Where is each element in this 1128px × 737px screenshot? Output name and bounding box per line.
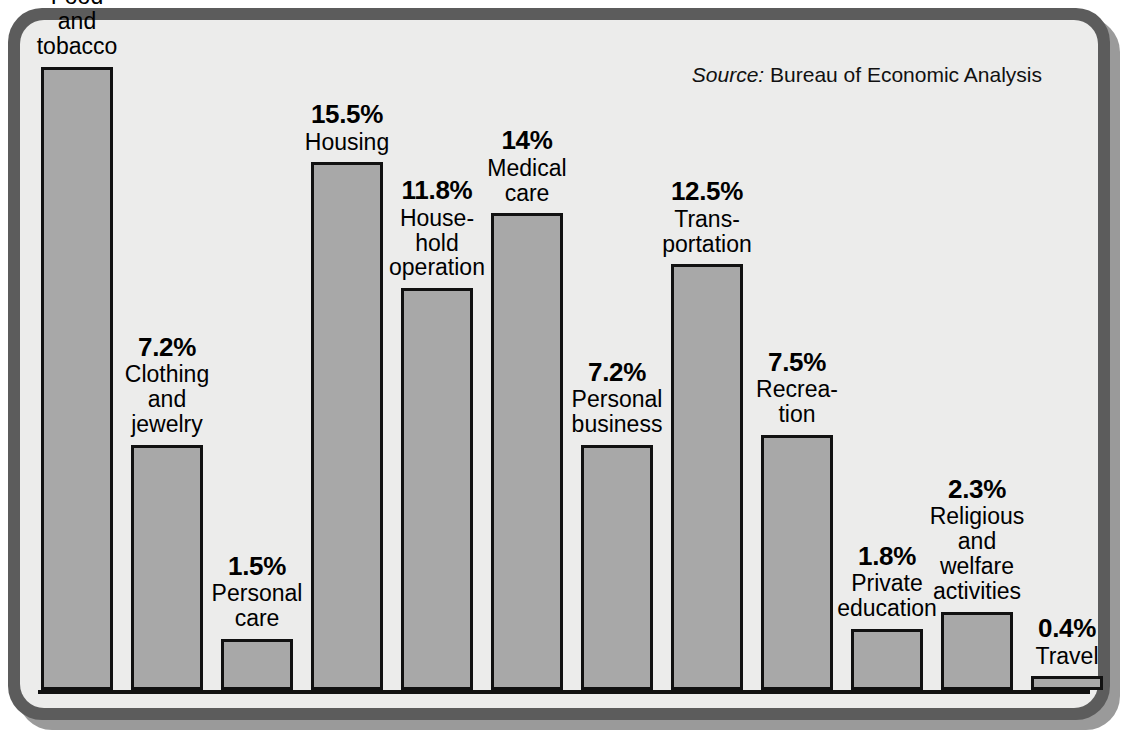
bar-value-personal-business: 7.2% [557,359,677,386]
bar-personal-business[interactable] [581,445,653,690]
axis-baseline [38,690,1090,694]
bar-recreation[interactable] [761,435,833,690]
bar-housing[interactable] [311,162,383,690]
chart-figure: Source: Bureau of Economic Analysis 18.3… [0,0,1128,737]
bar-label-housing: 15.5%Housing [287,101,407,154]
bar-rect-food-and-tobacco [41,67,113,690]
bar-category-line: jewelry [107,412,227,437]
bar-value-transportation: 12.5% [647,178,767,205]
bar-label-personal-care: 1.5%Personalcare [197,553,317,631]
bar-category-transportation: Trans-portation [647,207,767,257]
bar-category-line: and [917,529,1037,554]
bar-transportation[interactable] [671,264,743,690]
bar-religious-and-welfare[interactable] [941,612,1013,690]
bar-value-personal-care: 1.5% [197,553,317,580]
bar-category-line: operation [377,255,497,280]
bar-category-line: Medical [467,156,587,181]
bar-value-medical-care: 14% [467,127,587,154]
bar-value-travel: 0.4% [1007,615,1127,642]
bar-category-line: business [557,412,677,437]
bar-category-line: Personal [557,387,677,412]
bar-rect-transportation [671,264,743,690]
bar-category-line: Housing [287,130,407,155]
bar-private-education[interactable] [851,629,923,690]
bar-category-personal-care: Personalcare [197,581,317,631]
bar-rect-private-education [851,629,923,690]
bar-category-travel: Travel [1007,644,1127,669]
bar-category-line: Clothing [107,362,227,387]
bar-category-household-operation: House-holdoperation [377,206,497,280]
bar-category-line: and [17,9,137,34]
bar-category-line: Travel [1007,644,1127,669]
bar-category-personal-business: Personalbusiness [557,387,677,437]
bar-category-line: House- [377,206,497,231]
bar-personal-care[interactable] [221,639,293,690]
bar-category-recreation: Recrea-tion [737,377,857,427]
bar-label-recreation: 7.5%Recrea-tion [737,349,857,427]
bar-category-clothing-and-jewelry: Clothingandjewelry [107,362,227,436]
bar-travel[interactable] [1031,676,1103,690]
bar-value-housing: 15.5% [287,101,407,128]
bar-category-line: welfare [917,554,1037,579]
plot-area: Source: Bureau of Economic Analysis 18.3… [38,33,1090,694]
bar-rect-clothing-and-jewelry [131,445,203,690]
bar-food-and-tobacco[interactable] [41,67,113,690]
bar-category-line: Personal [197,581,317,606]
bar-clothing-and-jewelry[interactable] [131,445,203,690]
bar-category-medical-care: Medicalcare [467,156,587,206]
bar-label-transportation: 12.5%Trans-portation [647,178,767,256]
bar-label-travel: 0.4%Travel [1007,615,1127,668]
bar-category-line: care [197,606,317,631]
bar-category-line: care [467,181,587,206]
bar-rect-housing [311,162,383,690]
bar-category-line: activities [917,579,1037,604]
bar-category-line: Recrea- [737,377,857,402]
bar-label-food-and-tobacco: 18.3%Foodandtobacco [17,0,137,59]
bar-label-religious-and-welfare: 2.3%Religiousandwelfareactivities [917,476,1037,604]
bar-medical-care[interactable] [491,213,563,690]
bar-category-food-and-tobacco: Foodandtobacco [17,0,137,59]
bar-value-religious-and-welfare: 2.3% [917,476,1037,503]
bar-value-recreation: 7.5% [737,349,857,376]
bar-rect-recreation [761,435,833,690]
bar-household-operation[interactable] [401,288,473,690]
bar-category-line: hold [377,231,497,256]
bar-rect-personal-business [581,445,653,690]
bar-category-line: tobacco [17,34,137,59]
bar-category-line: tion [737,402,857,427]
bar-category-line: Religious [917,504,1037,529]
bar-rect-religious-and-welfare [941,612,1013,690]
bar-category-line: Trans- [647,207,767,232]
bar-label-medical-care: 14%Medicalcare [467,127,587,205]
bar-category-line: and [107,387,227,412]
bar-rect-household-operation [401,288,473,690]
bar-category-housing: Housing [287,130,407,155]
bar-value-clothing-and-jewelry: 7.2% [107,334,227,361]
bar-category-line: portation [647,232,767,257]
bars-layer: 18.3%Foodandtobacco7.2%Clothingandjewelr… [38,33,1090,694]
bar-category-religious-and-welfare: Religiousandwelfareactivities [917,504,1037,603]
bar-label-clothing-and-jewelry: 7.2%Clothingandjewelry [107,334,227,437]
bar-rect-medical-care [491,213,563,690]
bar-label-personal-business: 7.2%Personalbusiness [557,359,677,437]
bar-rect-personal-care [221,639,293,690]
bar-rect-travel [1031,676,1103,690]
